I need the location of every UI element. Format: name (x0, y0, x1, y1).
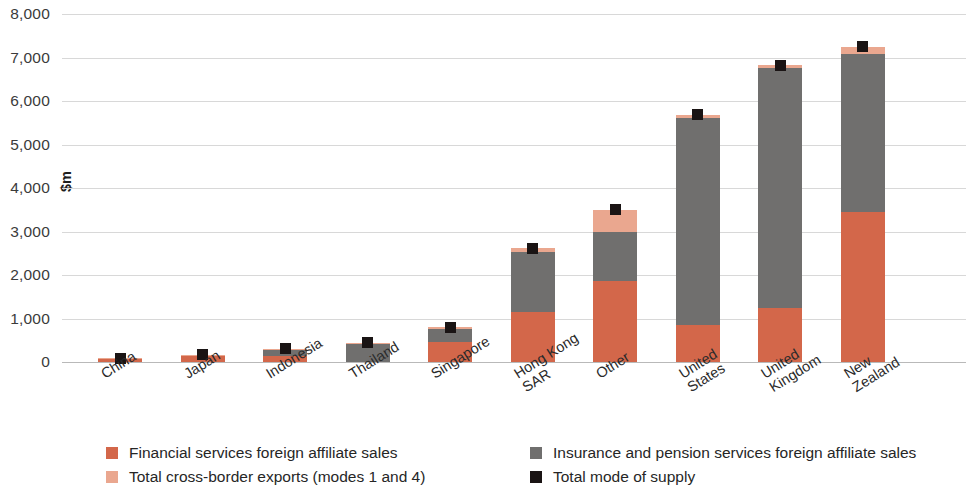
legend-item[interactable]: Insurance and pension services foreign a… (530, 444, 916, 462)
bar-segment (511, 252, 555, 312)
y-axis-tick-label: 6,000 (0, 92, 50, 110)
bar-group[interactable] (758, 53, 802, 362)
bar-segment (593, 281, 637, 362)
total-mode-of-supply-marker (857, 41, 868, 52)
bar-group[interactable] (593, 198, 637, 362)
total-mode-of-supply-marker (610, 204, 621, 215)
bar-group[interactable] (676, 103, 720, 362)
bar-segment (593, 232, 637, 281)
cross-border-exports-swatch (106, 471, 118, 483)
legend-item[interactable]: Total cross-border exports (modes 1 and … (106, 468, 425, 486)
total-mode-of-supply-marker (692, 109, 703, 120)
gridline (62, 232, 966, 233)
chart-legend: Financial services foreign affiliate sal… (106, 444, 966, 490)
insurance-pension-swatch (530, 447, 542, 459)
y-axis-tick-label: 1,000 (0, 310, 50, 328)
legend-label: Total mode of supply (553, 468, 695, 486)
legend-label: Financial services foreign affiliate sal… (129, 444, 398, 462)
y-axis-tick-label: 0 (0, 353, 50, 371)
y-axis-tick-label: 3,000 (0, 223, 50, 241)
plot-area: $m 8,0007,0006,0005,0004,0003,0002,0001,… (62, 14, 966, 362)
legend-label: Total cross-border exports (modes 1 and … (129, 468, 425, 486)
legend-item[interactable]: Total mode of supply (530, 468, 695, 486)
y-axis-tick-label: 7,000 (0, 49, 50, 67)
total-mode-of-supply-marker (527, 243, 538, 254)
bar-segment (841, 54, 885, 212)
bar-segment (841, 212, 885, 362)
bar-group[interactable] (841, 35, 885, 362)
gridline (62, 14, 966, 15)
y-axis-tick-label: 8,000 (0, 5, 50, 23)
legend-item[interactable]: Financial services foreign affiliate sal… (106, 444, 398, 462)
total-mode-of-supply-swatch (530, 471, 542, 483)
legend-label: Insurance and pension services foreign a… (553, 444, 916, 462)
bar-segment (758, 68, 802, 307)
chart-container: $m 8,0007,0006,0005,0004,0003,0002,0001,… (0, 0, 972, 491)
gridline (62, 58, 966, 59)
gridline (62, 188, 966, 189)
total-mode-of-supply-marker (445, 322, 456, 333)
total-mode-of-supply-marker (775, 60, 786, 71)
financial-services-swatch (106, 447, 118, 459)
y-axis-tick-label: 2,000 (0, 266, 50, 284)
y-axis-tick-label: 5,000 (0, 136, 50, 154)
total-mode-of-supply-marker (362, 337, 373, 348)
gridline (62, 145, 966, 146)
bar-group[interactable] (511, 236, 555, 362)
gridline (62, 101, 966, 102)
y-axis-tick-label: 4,000 (0, 179, 50, 197)
bar-segment (676, 118, 720, 326)
